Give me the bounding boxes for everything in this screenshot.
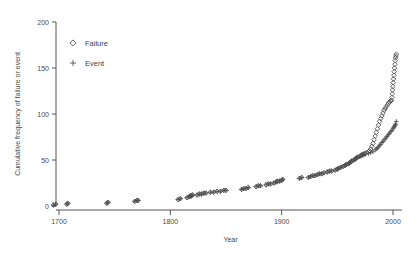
data-point-event bbox=[308, 174, 313, 179]
x-axis-title: Year bbox=[223, 236, 238, 243]
x-tick-label: 1800 bbox=[163, 218, 179, 225]
y-tick-label: 50 bbox=[41, 157, 49, 164]
chart-figure: 050100150200 1700180019002000 FailureEve… bbox=[0, 0, 418, 254]
chart-legend: FailureEvent bbox=[70, 39, 108, 68]
axis-titles: YearCumulative frequency of failure or e… bbox=[14, 52, 238, 243]
data-point-event bbox=[264, 183, 269, 188]
data-point-event bbox=[176, 197, 181, 202]
data-point-event bbox=[64, 202, 69, 207]
data-point-event bbox=[66, 201, 71, 206]
data-point-event bbox=[368, 150, 373, 155]
data-point-event bbox=[315, 172, 320, 177]
data-point-event bbox=[299, 175, 304, 180]
data-point-event bbox=[306, 175, 311, 180]
x-tick-label: 2000 bbox=[385, 218, 401, 225]
chart-canvas: 050100150200 1700180019002000 FailureEve… bbox=[0, 0, 418, 254]
y-tick-label: 150 bbox=[37, 65, 49, 72]
series-event-points bbox=[51, 119, 399, 207]
legend-label-failure: Failure bbox=[85, 39, 108, 48]
y-tick-label: 100 bbox=[37, 111, 49, 118]
x-tick-label: 1900 bbox=[274, 218, 290, 225]
data-point-event bbox=[394, 119, 399, 124]
data-point-event bbox=[105, 201, 110, 206]
data-point-event bbox=[297, 176, 302, 181]
data-point-event bbox=[239, 187, 244, 192]
data-point-event bbox=[178, 196, 183, 201]
legend-label-event: Event bbox=[85, 59, 105, 68]
series-failure-points bbox=[51, 52, 399, 207]
data-point-event bbox=[254, 184, 259, 189]
legend-marker-event bbox=[70, 60, 76, 66]
data-point-event bbox=[106, 200, 111, 205]
data-point-event bbox=[51, 203, 56, 208]
data-point-event bbox=[279, 178, 284, 183]
y-tick-label: 200 bbox=[37, 19, 49, 26]
x-tick-label: 1700 bbox=[51, 218, 67, 225]
y-axis: 050100150200 bbox=[37, 19, 56, 210]
y-tick-label: 0 bbox=[45, 203, 49, 210]
data-point-event bbox=[195, 193, 200, 198]
y-axis-title: Cumulative frequency of failure or event bbox=[14, 52, 22, 176]
data-point-event bbox=[246, 185, 251, 190]
legend-marker-failure bbox=[70, 40, 76, 46]
x-axis: 1700180019002000 bbox=[51, 210, 402, 225]
